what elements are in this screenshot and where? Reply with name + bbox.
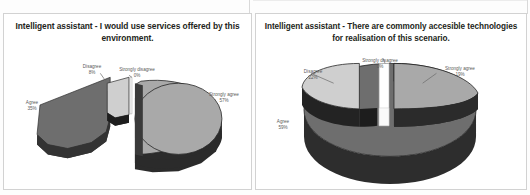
pie-label-agree-left-value: 35% bbox=[12, 106, 52, 112]
scan-artifact-line bbox=[527, 0, 528, 14]
pie-label-disagree-left: Disagree 8% bbox=[72, 64, 112, 75]
pie-label-agree-left: Agree 35% bbox=[12, 100, 52, 111]
pie-slice-strongly-disagree-right bbox=[379, 63, 389, 125]
pie-chart-right bbox=[256, 14, 526, 189]
pie-label-agree-right-value: 59% bbox=[264, 125, 302, 131]
pie-label-strongly-disagree-left-value: 0% bbox=[108, 73, 166, 79]
pie-label-strongly-agree-right-value: 19% bbox=[434, 72, 486, 78]
pie-label-disagree-right-value: 22% bbox=[292, 75, 334, 81]
chart-panel-left: Intelligent assistant - I would use serv… bbox=[3, 13, 252, 190]
pie-slice-disagree-left bbox=[107, 77, 129, 125]
pie-label-strongly-disagree-right: Strongly disagree 0% bbox=[349, 58, 411, 69]
chart-panel-right: Intelligent assistant - There are common… bbox=[255, 13, 527, 190]
pie-label-strongly-agree-left: Strongly agree 57% bbox=[200, 92, 248, 103]
pie-label-strongly-disagree-right-value: 0% bbox=[349, 64, 411, 70]
pie-label-strongly-agree-right: Strongly agree 19% bbox=[434, 66, 486, 77]
figure-canvas: Intelligent assistant - I would use serv… bbox=[0, 0, 530, 195]
scan-artifact-line bbox=[249, 0, 250, 14]
pie-slice-agree-left bbox=[37, 77, 110, 158]
pie-label-strongly-agree-left-value: 57% bbox=[200, 98, 248, 104]
pie-label-agree-right: Agree 59% bbox=[264, 119, 302, 130]
pie-label-disagree-left-value: 8% bbox=[72, 70, 112, 76]
pie-slice-strongly-disagree-left bbox=[130, 77, 132, 114]
pie-label-strongly-disagree-left: Strongly disagree 0% bbox=[108, 67, 166, 78]
pie-label-disagree-right: Disagree 22% bbox=[292, 69, 334, 80]
scan-artifact-line bbox=[253, 0, 527, 1]
